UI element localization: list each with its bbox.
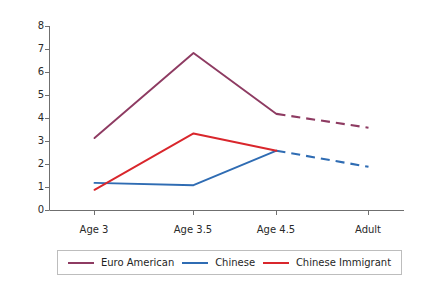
legend-item-chinese: Chinese [182,257,255,268]
legend-label-euro-american: Euro American [101,257,174,268]
series-line-chinese [95,151,277,186]
legend-swatch-chinese-immigrant [263,262,289,264]
data-series-layer [95,53,369,190]
legend-label-chinese-immigrant: Chinese Immigrant [296,257,391,268]
legend-swatch-chinese [182,262,208,264]
chart-legend: Euro American Chinese Chinese Immigrant [57,250,402,275]
legend-label-chinese: Chinese [215,257,255,268]
legend-item-chinese-immigrant: Chinese Immigrant [263,257,391,268]
plot-area [0,0,430,286]
y-tick-marks [45,27,50,211]
legend-swatch-euro-american [68,262,94,264]
chart-figure: Mean personal-to-social self-description… [0,0,430,286]
legend-item-euro-american: Euro American [68,257,174,268]
x-tick-marks [95,211,369,216]
series-line-euro-american [95,53,277,138]
series-projection-euro-american [277,114,369,128]
series-projection-chinese [277,151,369,167]
